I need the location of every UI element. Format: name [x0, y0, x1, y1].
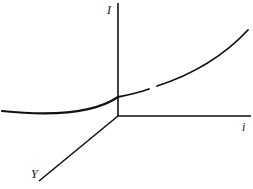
- label-i: i: [242, 120, 245, 134]
- diagonal-axis-Y: [39, 116, 118, 181]
- curve-right: [157, 30, 248, 86]
- label-I: I: [106, 3, 112, 17]
- curve-left: [2, 97, 118, 113]
- diagram-figure: I i Y: [0, 0, 253, 189]
- label-Y: Y: [31, 167, 39, 181]
- curve-middle: [118, 89, 149, 97]
